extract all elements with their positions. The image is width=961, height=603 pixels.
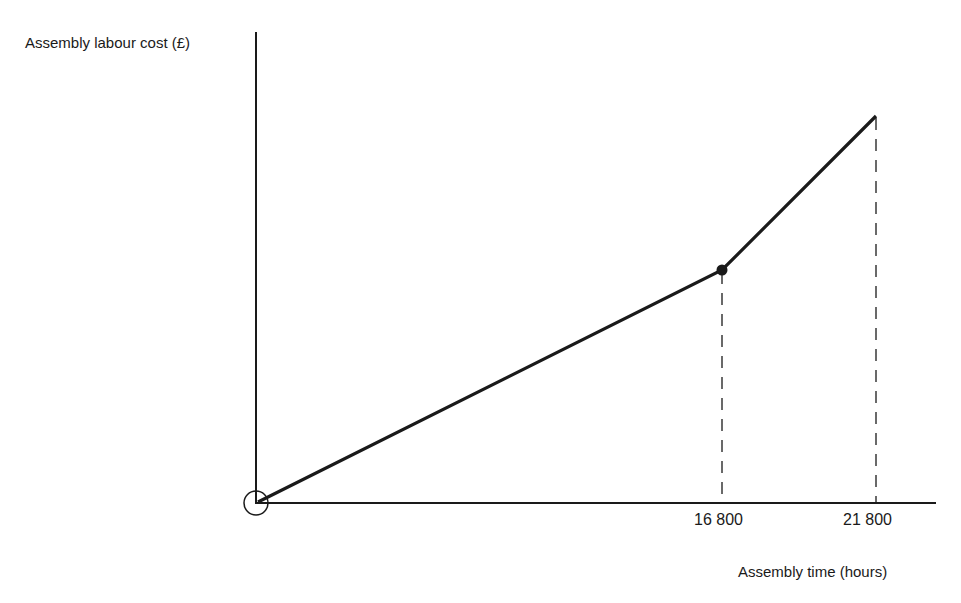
x-tick-16800: 16 800 — [694, 511, 743, 529]
y-axis-label: Assembly labour cost (£) — [25, 34, 190, 51]
x-axis-label: Assembly time (hours) — [738, 563, 887, 580]
cost-line — [258, 116, 876, 502]
x-tick-21800: 21 800 — [843, 511, 892, 529]
chart-plot — [0, 0, 961, 603]
breakpoint-dot-marker — [717, 265, 728, 276]
